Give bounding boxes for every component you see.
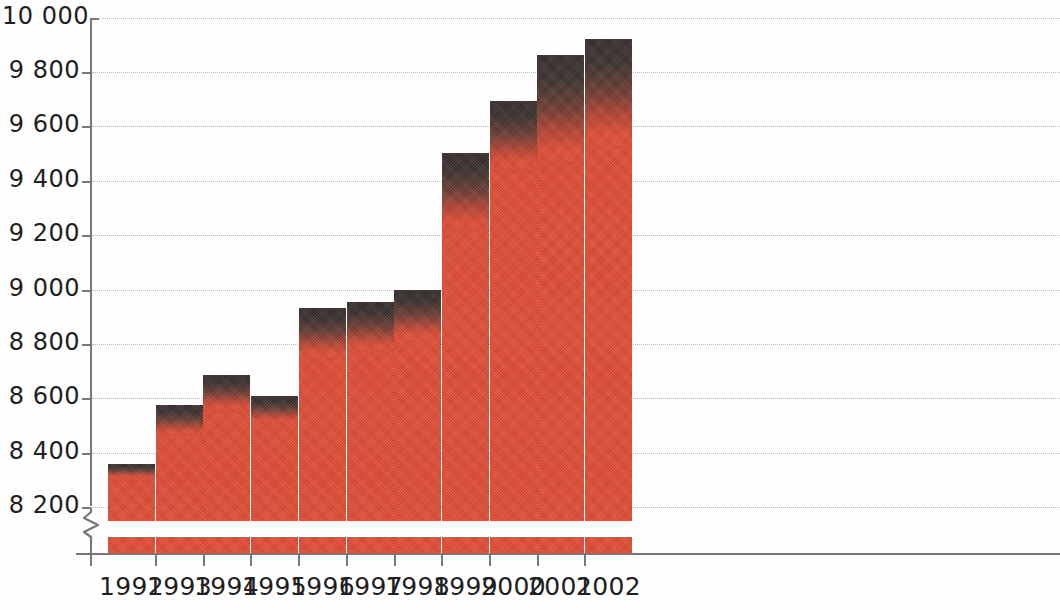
x-tick-6 — [441, 554, 443, 566]
x-tick-3 — [298, 554, 300, 566]
x-axis-label-2002: 2002 — [569, 572, 649, 601]
x-tick-0 — [155, 554, 157, 566]
bar-chart: 10 000 9 800 9 600 9 400 9 200 9 000 8 8… — [0, 0, 1060, 610]
x-axis-layer: 1992199319941995199619971998199920002001… — [0, 0, 1060, 610]
x-tick-8 — [537, 554, 539, 566]
x-tick-4 — [346, 554, 348, 566]
x-tick-1 — [203, 554, 205, 566]
x-tick-origin — [90, 554, 92, 566]
x-tick-2 — [250, 554, 252, 566]
x-tick-9 — [584, 554, 586, 566]
x-tick-7 — [489, 554, 491, 566]
x-tick-5 — [394, 554, 396, 566]
